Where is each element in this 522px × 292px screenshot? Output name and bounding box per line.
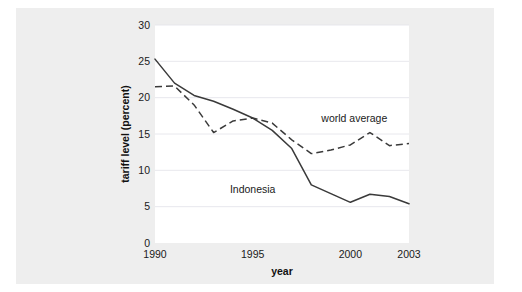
y-tick-label-25: 25 xyxy=(138,55,150,67)
x-tick-label-1995: 1995 xyxy=(241,248,265,260)
x-axis-title: year xyxy=(271,265,293,277)
y-tick-label-10: 10 xyxy=(138,164,150,176)
x-tick-label-1990: 1990 xyxy=(143,248,167,260)
y-tick-label-5: 5 xyxy=(144,200,150,212)
series-annotation-indonesia: Indonesia xyxy=(230,183,276,195)
y-axis-tick-labels: 051015202530 xyxy=(138,19,150,249)
line-chart: 051015202530 1990199520002003 Indonesiaw… xyxy=(0,0,522,292)
y-tick-label-30: 30 xyxy=(138,19,150,31)
y-tick-label-0: 0 xyxy=(144,237,150,249)
figure-container: 051015202530 1990199520002003 Indonesiaw… xyxy=(0,0,522,292)
x-tick-label-2003: 2003 xyxy=(397,248,421,260)
x-axis-tick-labels: 1990199520002003 xyxy=(143,248,421,260)
y-tick-label-20: 20 xyxy=(138,91,150,103)
series-annotation-world-average: world average xyxy=(320,112,387,124)
y-axis-title: tariff level (percent) xyxy=(119,85,131,182)
y-tick-label-15: 15 xyxy=(138,128,150,140)
x-tick-label-2000: 2000 xyxy=(339,248,363,260)
